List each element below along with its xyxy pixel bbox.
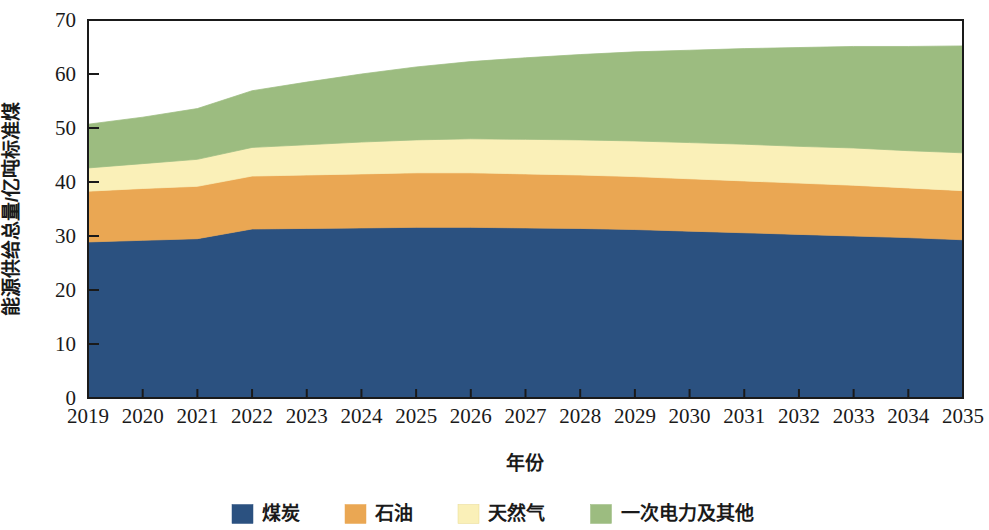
figure-container: 010203040506070 201920202021202220232024… xyxy=(0,0,989,530)
x-tick-label: 2030 xyxy=(669,404,711,428)
x-tick-label: 2019 xyxy=(67,404,109,428)
legend-label: 石油 xyxy=(374,503,413,524)
x-axis-tick-labels: 2019202020212022202320242025202620272028… xyxy=(67,404,984,428)
legend-item-4: 一次电力及其他 xyxy=(591,502,754,524)
y-tick-label: 40 xyxy=(55,170,76,194)
x-tick-label: 2028 xyxy=(559,404,601,428)
x-axis-title: 年份 xyxy=(506,452,545,474)
x-tick-label: 2026 xyxy=(450,404,492,428)
x-tick-label: 2033 xyxy=(833,404,875,428)
x-tick-label: 2025 xyxy=(395,404,437,428)
legend-label: 煤炭 xyxy=(262,503,300,524)
y-tick-label: 10 xyxy=(55,332,76,356)
stacked-area-chart: 010203040506070 201920202021202220232024… xyxy=(0,0,989,530)
legend-label: 一次电力及其他 xyxy=(621,502,754,524)
x-tick-label: 2032 xyxy=(778,404,820,428)
x-tick-label: 2027 xyxy=(505,404,547,428)
legend-swatch xyxy=(591,505,612,524)
y-tick-label: 70 xyxy=(55,8,76,32)
x-tick-label: 2034 xyxy=(887,404,930,428)
y-tick-label: 20 xyxy=(55,278,76,302)
x-tick-label: 2031 xyxy=(723,404,765,428)
x-tick-label: 2029 xyxy=(614,404,656,428)
x-tick-label: 2035 xyxy=(942,404,984,428)
y-axis-tick-labels: 010203040506070 xyxy=(55,8,76,410)
legend-swatch xyxy=(345,505,366,524)
x-tick-label: 2023 xyxy=(286,404,328,428)
chart-legend: 煤炭石油天然气一次电力及其他 xyxy=(232,502,754,524)
legend-swatch xyxy=(232,505,253,524)
legend-label: 天然气 xyxy=(488,502,545,524)
y-tick-label: 50 xyxy=(55,116,76,140)
x-tick-label: 2020 xyxy=(122,404,164,428)
legend-item-2: 石油 xyxy=(345,503,413,524)
y-axis-title: 能源供给总量/亿吨标准煤 xyxy=(0,102,22,316)
x-tick-label: 2024 xyxy=(340,404,383,428)
legend-item-3: 天然气 xyxy=(458,502,545,524)
area-band-1 xyxy=(88,227,963,398)
legend-swatch xyxy=(458,505,479,524)
x-tick-label: 2021 xyxy=(176,404,218,428)
legend-item-1: 煤炭 xyxy=(232,503,300,524)
x-tick-label: 2022 xyxy=(231,404,273,428)
y-tick-label: 60 xyxy=(55,62,76,86)
y-tick-label: 30 xyxy=(55,224,76,248)
